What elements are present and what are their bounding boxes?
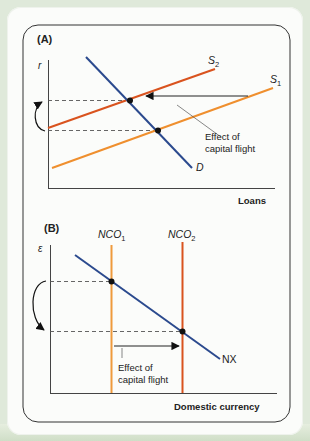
panel-b-nx-line <box>75 255 220 359</box>
panel-a-demand-label: D <box>196 161 204 173</box>
panel-a-new-equilibrium-point <box>127 98 133 104</box>
panel-b-annotation-line1: Effect of <box>118 362 153 373</box>
panel-b-y-axis-label: ε <box>38 243 43 254</box>
panel-a-x-axis-label: Loans <box>238 195 266 206</box>
panel-a-rate-increase-arrow-icon <box>35 102 45 131</box>
panel-a-s2-label: S2 <box>208 54 219 69</box>
panel-a-supply-s1-line <box>52 88 273 168</box>
panel-b-x-axis-label: Domestic currency <box>174 401 260 412</box>
panel-b-nco2-label: NCO2 <box>168 228 196 243</box>
panel-a-annotation-line1: Effect of <box>205 131 240 142</box>
panel-b: (B) ε Domestic currency NCO1 NCO2 NX Eff… <box>33 222 277 412</box>
diagram-border <box>23 25 290 422</box>
capital-flight-diagram: (A) r Loans S1 S2 D Effect of capital fl… <box>0 0 310 441</box>
panel-a-demand-line <box>86 57 192 168</box>
panel-a-label: (A) <box>37 33 53 45</box>
panel-a-s1-label: S1 <box>270 73 281 88</box>
panel-a: (A) r Loans S1 S2 D Effect of capital fl… <box>35 33 281 206</box>
panel-b-new-equilibrium-point <box>180 329 186 335</box>
panel-a-y-axis-label: r <box>38 60 42 71</box>
panel-a-old-equilibrium-point <box>155 128 161 134</box>
panel-b-annotation-line2: capital flight <box>118 374 169 385</box>
panel-b-exchange-rate-decrease-arrow-icon <box>33 281 46 330</box>
panel-b-old-equilibrium-point <box>109 279 115 285</box>
panel-a-annotation-line2: capital flight <box>205 143 256 154</box>
panel-b-nco1-label: NCO1 <box>98 228 126 243</box>
panel-b-label: (B) <box>44 222 60 234</box>
panel-b-nx-label: NX <box>222 353 237 365</box>
